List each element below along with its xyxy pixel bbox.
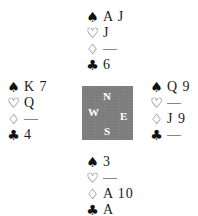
north-clubs-cards: 6	[103, 57, 111, 73]
east-hearts-row: ♡ —	[150, 95, 191, 111]
east-diamonds-row: ♢ J 9	[150, 111, 191, 127]
west-diamonds-cards: —	[24, 111, 39, 127]
west-spades-cards: K 7	[24, 79, 48, 95]
east-spades-cards: Q 9	[167, 79, 191, 95]
spade-icon: ♠	[86, 154, 99, 170]
spade-icon: ♠	[150, 79, 163, 95]
east-spades-row: ♠ Q 9	[150, 79, 191, 95]
diamond-icon: ♢	[86, 41, 99, 57]
compass-west-label: W	[88, 107, 99, 118]
north-spades-cards: A J	[103, 9, 124, 25]
south-spades-cards: 3	[103, 154, 111, 170]
east-diamonds-cards: J 9	[167, 111, 186, 127]
diamond-icon: ♢	[150, 111, 163, 127]
east-clubs-cards: —	[167, 127, 182, 143]
spade-icon: ♠	[7, 79, 20, 95]
north-diamonds-row: ♢ —	[86, 41, 124, 57]
south-clubs-cards: A	[103, 202, 114, 216]
west-clubs-row: ♣ 4	[7, 127, 48, 143]
west-clubs-cards: 4	[24, 127, 32, 143]
south-diamonds-row: ♢ A 10	[86, 186, 134, 202]
compass-south-label: S	[104, 126, 110, 137]
east-hearts-cards: —	[167, 95, 182, 111]
club-icon: ♣	[86, 202, 99, 216]
west-hearts-cards: Q	[24, 95, 35, 111]
north-clubs-row: ♣ 6	[86, 57, 124, 73]
diamond-icon: ♢	[7, 111, 20, 127]
heart-icon: ♡	[150, 95, 163, 111]
south-hearts-row: ♡ —	[86, 170, 134, 186]
compass-east-label: E	[120, 111, 127, 122]
east-clubs-row: ♣ —	[150, 127, 191, 143]
heart-icon: ♡	[7, 95, 20, 111]
west-hearts-row: ♡ Q	[7, 95, 48, 111]
club-icon: ♣	[7, 127, 20, 143]
west-hand: ♠ K 7 ♡ Q ♢ — ♣ 4	[7, 79, 48, 143]
south-diamonds-cards: A 10	[103, 186, 134, 202]
club-icon: ♣	[86, 57, 99, 73]
south-hand: ♠ 3 ♡ — ♢ A 10 ♣ A	[86, 154, 134, 216]
compass-north-label: N	[103, 91, 111, 102]
spade-icon: ♠	[86, 9, 99, 25]
east-hand: ♠ Q 9 ♡ — ♢ J 9 ♣ —	[150, 79, 191, 143]
club-icon: ♣	[150, 127, 163, 143]
north-spades-row: ♠ A J	[86, 9, 124, 25]
west-diamonds-row: ♢ —	[7, 111, 48, 127]
heart-icon: ♡	[86, 25, 99, 41]
south-clubs-row: ♣ A	[86, 202, 134, 216]
south-spades-row: ♠ 3	[86, 154, 134, 170]
north-hand: ♠ A J ♡ J ♢ — ♣ 6	[86, 9, 124, 73]
north-hearts-row: ♡ J	[86, 25, 124, 41]
heart-icon: ♡	[86, 170, 99, 186]
south-hearts-cards: —	[103, 170, 118, 186]
west-spades-row: ♠ K 7	[7, 79, 48, 95]
north-hearts-cards: J	[103, 25, 109, 41]
diamond-icon: ♢	[86, 186, 99, 202]
compass-box: N W E S	[82, 86, 133, 140]
north-diamonds-cards: —	[103, 41, 118, 57]
